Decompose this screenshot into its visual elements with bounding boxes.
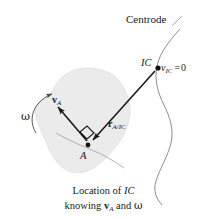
omega-label: ω bbox=[21, 111, 30, 122]
vic-equation: vIC=0 bbox=[161, 63, 186, 75]
caption-line1-italic: IC bbox=[124, 185, 135, 196]
figure-caption: Location of IC knowing vA and ω bbox=[0, 184, 207, 215]
va-label: vA bbox=[52, 95, 61, 107]
r-a-ic-label: rA/IC bbox=[108, 119, 126, 131]
point-a-label: A bbox=[80, 151, 86, 162]
caption-line1-prefix: Location of bbox=[73, 185, 124, 196]
vic-value: 0 bbox=[181, 62, 186, 73]
vic-equals: = bbox=[174, 62, 180, 73]
caption-line-2: knowing vA and ω bbox=[0, 198, 207, 214]
space-centrode-curve bbox=[155, 29, 180, 205]
instantaneous-center-diagram: Centrode IC vIC=0 vA rA/IC A ω Location … bbox=[0, 0, 207, 219]
caption-line2-omega: ω bbox=[134, 199, 143, 211]
va-subscript: A bbox=[57, 99, 61, 107]
caption-line-1: Location of IC bbox=[0, 184, 207, 198]
vic-subscript: IC bbox=[165, 67, 172, 75]
caption-line2-prefix: knowing bbox=[65, 200, 104, 211]
centrode-label: Centrode bbox=[126, 14, 166, 25]
centrode-leader-line bbox=[172, 16, 182, 26]
caption-line2-conj: and bbox=[113, 200, 133, 211]
ic-label: IC bbox=[141, 58, 152, 69]
r-subscript: A/IC bbox=[112, 123, 125, 131]
point-a-dot bbox=[86, 143, 91, 148]
point-ic-dot bbox=[155, 65, 160, 70]
